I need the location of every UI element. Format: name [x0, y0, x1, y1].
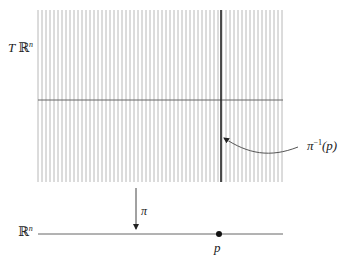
total-space-label: T ℝn: [8, 40, 33, 56]
n-exp: n: [29, 224, 33, 233]
fiber-lines: [38, 10, 282, 182]
inverse-exp: −1: [314, 138, 323, 147]
fiber-label: π−1(p): [307, 138, 337, 154]
R-label: ℝ: [18, 40, 29, 55]
bundle-diagram: [0, 0, 358, 258]
n-exp: n: [29, 40, 33, 49]
point-label: p: [214, 240, 221, 256]
p-arg: (p): [322, 138, 337, 153]
base-space-label: ℝn: [18, 224, 33, 240]
fiber-pointer-arrow: [224, 138, 298, 153]
projection-label: π: [141, 204, 147, 219]
point-p: [216, 231, 222, 237]
R-label: ℝ: [18, 224, 29, 239]
T-label: T: [8, 40, 18, 55]
